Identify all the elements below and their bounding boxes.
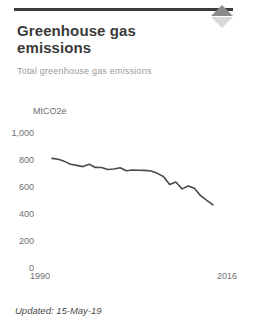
sort-diamond-icon[interactable] — [211, 5, 233, 29]
greenhouse-gas-emissions-card: Greenhouse gas emissions Total greenhous… — [0, 0, 255, 335]
chart-container: MtCO2e 1,000 800 600 400 200 0 1990 2016 — [0, 104, 255, 294]
page-title: Greenhouse gas emissions — [17, 22, 167, 56]
series-line-total-ghg — [52, 158, 213, 204]
emissions-line-chart — [0, 104, 255, 294]
triangle-up-icon — [211, 5, 233, 16]
card-top-rule — [14, 8, 233, 11]
updated-timestamp: Updated: 15-May-19 — [15, 305, 102, 316]
card-header: Greenhouse gas emissions — [17, 22, 237, 56]
card-subtitle: Total greenhouse gas emissions — [17, 66, 152, 76]
triangle-down-icon — [211, 17, 233, 28]
